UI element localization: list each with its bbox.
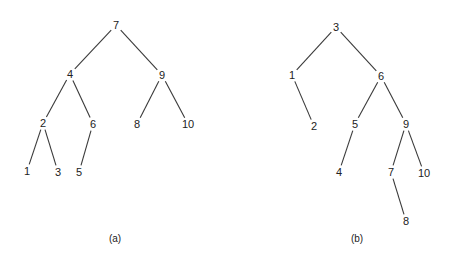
- tree-node-6: 6: [90, 118, 96, 130]
- tree-node-2: 2: [40, 117, 46, 129]
- tree-edge-4-2: [46, 80, 66, 117]
- tree-node-5: 5: [352, 118, 358, 130]
- tree-edge-1-2: [295, 81, 311, 119]
- tree-node-2: 2: [311, 120, 317, 132]
- tree-node-8: 8: [134, 118, 140, 130]
- tree-edge-5-4: [341, 131, 353, 166]
- tree-caption: (a): [109, 233, 121, 244]
- tree-node-6: 6: [378, 70, 384, 82]
- tree-edge-3-1: [297, 32, 332, 70]
- tree-edge-9-8: [140, 81, 159, 118]
- tree-diagram-canvas: 74926810135(a) 31625947108(b): [0, 0, 451, 258]
- tree-edge-3-6: [341, 32, 377, 71]
- tree-node-9: 9: [159, 69, 165, 81]
- tree-a: 74926810135(a): [24, 19, 194, 244]
- tree-edge-7-9: [121, 30, 158, 70]
- tree-node-10: 10: [182, 118, 194, 130]
- tree-node-5: 5: [76, 166, 82, 178]
- tree-node-10: 10: [418, 167, 430, 179]
- tree-node-7: 7: [388, 166, 394, 178]
- tree-edge-7-8: [393, 179, 404, 215]
- tree-node-4: 4: [67, 68, 73, 80]
- tree-b: 31625947108(b): [289, 21, 430, 244]
- tree-node-9: 9: [403, 118, 409, 130]
- tree-node-1: 1: [289, 69, 295, 81]
- tree-caption: (b): [351, 233, 363, 244]
- tree-edge-7-4: [75, 30, 111, 69]
- tree-edge-9-10: [408, 131, 421, 167]
- tree-node-3: 3: [55, 166, 61, 178]
- tree-edge-2-3: [45, 130, 56, 166]
- tree-edge-2-1: [29, 130, 41, 165]
- tree-node-4: 4: [336, 166, 342, 178]
- tree-node-3: 3: [333, 21, 339, 33]
- tree-node-7: 7: [113, 19, 119, 31]
- tree-edge-6-5: [358, 82, 377, 118]
- tree-node-1: 1: [24, 165, 30, 177]
- tree-edge-6-9: [384, 82, 403, 118]
- tree-edge-9-7: [393, 131, 404, 166]
- tree-edge-6-5: [81, 131, 91, 166]
- tree-edge-9-10: [165, 81, 184, 118]
- tree-node-8: 8: [403, 215, 409, 227]
- tree-edge-4-6: [73, 80, 90, 117]
